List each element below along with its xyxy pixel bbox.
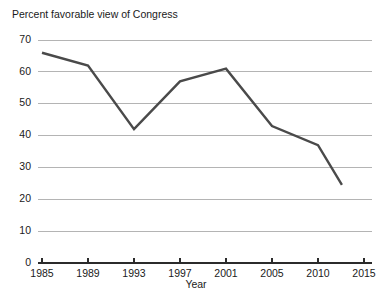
gridlines (38, 40, 372, 231)
x-axis-tick-label: 2005 (260, 267, 284, 279)
y-axis-tick-label: 20 (19, 192, 31, 204)
x-axis-title: Year (185, 278, 207, 290)
y-axis-tick-labels: 010203040506070 (19, 33, 31, 268)
y-axis-tick-label: 10 (19, 224, 31, 236)
x-axis-tick-label: 2001 (214, 267, 238, 279)
y-axis-tick-label: 60 (19, 65, 31, 77)
x-axis-tick-label: 2010 (306, 267, 330, 279)
x-axis-tick-label: 2015 (352, 267, 376, 279)
x-axis-tick-label: 1985 (30, 267, 54, 279)
y-axis-tick-label: 0 (25, 256, 31, 268)
x-axis-tick-label: 1993 (122, 267, 146, 279)
y-axis-tick-label: 70 (19, 33, 31, 45)
y-axis-tick-label: 40 (19, 128, 31, 140)
y-axis-tick-label: 30 (19, 160, 31, 172)
chart-container: Percent favorable view of Congress 01020… (0, 0, 384, 300)
data-series-line (42, 53, 342, 185)
x-axis-tick-label: 1989 (76, 267, 100, 279)
y-axis-tick-label: 50 (19, 96, 31, 108)
line-chart-plot: 010203040506070 198519891993199720012005… (0, 0, 384, 300)
x-axis (38, 258, 372, 263)
